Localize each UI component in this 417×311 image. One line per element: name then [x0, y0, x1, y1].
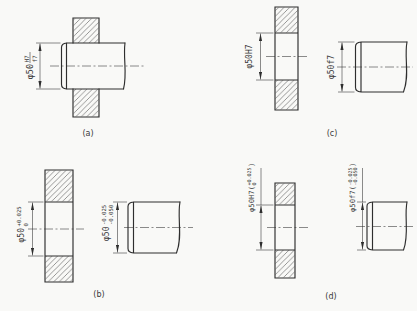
hole-dim-text: φ50H7: [245, 44, 254, 68]
hole-dimension-label: φ50H7: [245, 44, 254, 68]
fit-annotation-figure: φ50 H7 f7 (a) φ50H7 φ50f7 (c): [0, 0, 417, 311]
hole-dimension-label: φ50 +0.025 0: [16, 206, 29, 242]
shaft-dim-text: φ50f7: [327, 55, 336, 79]
shaft-dimension-label: φ50 -0.025 -0.050: [101, 205, 114, 241]
dim-prefix: φ50H7(: [247, 186, 256, 212]
shaft-dimension-label: φ50f7: [327, 55, 336, 79]
panel-d-label: (d): [325, 292, 336, 301]
panel-b: φ50 +0.025 0 φ50 -0.025 -0.050 (b): [16, 170, 193, 299]
wall-hatch-top: [276, 8, 298, 33]
wall-hatch-bottom: [276, 250, 295, 278]
dim-prefix: φ50: [25, 64, 35, 79]
dim-numerator: H7: [23, 55, 30, 63]
dim-suffix: ): [247, 163, 256, 167]
wall-hatch-top: [74, 19, 99, 44]
wall-hatch-bottom: [74, 89, 99, 117]
wall-hatch-bottom: [46, 256, 73, 282]
dim-prefix: φ50f7(: [348, 186, 357, 212]
hole-dimension-label: φ50H7( +0.025 0 ): [246, 163, 258, 212]
dim-suffix: ): [348, 163, 357, 167]
shaft-dimension-label: φ50f7( -0.025 -0.050 ): [347, 163, 359, 212]
panel-c-label: (c): [327, 129, 338, 138]
shaft-outline: [367, 202, 407, 250]
dim-prefix: φ50: [102, 226, 111, 241]
dim-lower-deviation: 0: [251, 182, 257, 185]
dim-prefix: φ50: [17, 228, 26, 243]
panel-a-label: (a): [82, 129, 93, 138]
dim-lower-deviation: -0.050: [108, 205, 114, 225]
shaft-extension-lines: [357, 202, 366, 250]
dim-lower-deviation: 0: [23, 223, 29, 226]
dim-lower-deviation: -0.050: [352, 167, 358, 185]
wall-hatch-bottom: [276, 80, 298, 110]
panel-a: φ50 H7 f7 (a): [23, 18, 145, 138]
panel-b-label: (b): [93, 290, 104, 299]
dim-upper-deviation: -0.025: [101, 205, 107, 225]
fit-dimension-label: φ50 H7 f7: [23, 52, 38, 79]
wall-hatch-top: [276, 184, 295, 205]
dim-denominator: f7: [31, 55, 38, 63]
panel-c: φ50H7 φ50f7 (c): [245, 7, 413, 138]
wall-hatch-top: [46, 171, 73, 202]
dim-upper-deviation: +0.025: [16, 206, 22, 226]
panel-d: φ50H7( +0.025 0 ) φ50f7( -0.025 -0.050 )…: [246, 163, 414, 301]
engineering-drawing-canvas: φ50 H7 f7 (a) φ50H7 φ50f7 (c): [0, 0, 417, 311]
